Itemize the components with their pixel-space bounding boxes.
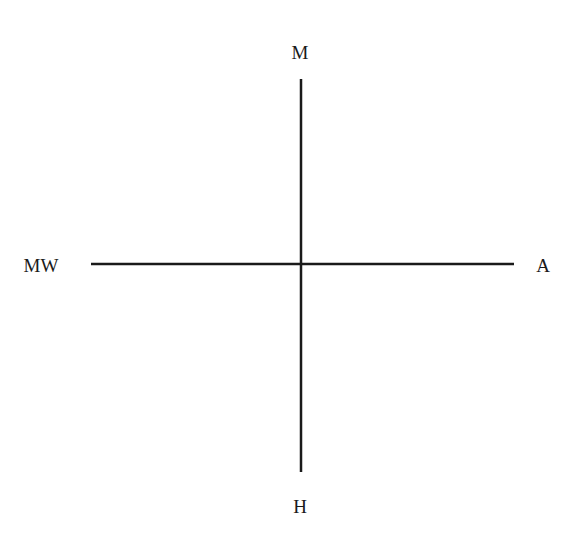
axes-graphic — [0, 0, 583, 544]
axis-label-right: A — [536, 256, 550, 275]
axis-label-bottom: H — [293, 497, 307, 516]
diagram-canvas: M H MW A — [0, 0, 583, 544]
axis-label-top: M — [292, 43, 309, 62]
axis-label-left: MW — [24, 256, 59, 275]
